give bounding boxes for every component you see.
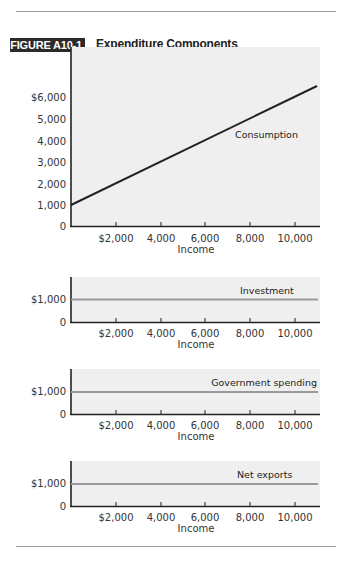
- x-tick-label: $2,000: [99, 328, 134, 339]
- y-tick-label: $6,000: [31, 92, 66, 103]
- x-tick-label: 8,000: [236, 328, 265, 339]
- x-tick-label: 10,000: [278, 328, 313, 339]
- y-tick-label: $1,000: [31, 386, 66, 397]
- y-tick-label: 0: [60, 317, 66, 328]
- x-axis-title: Income: [178, 523, 215, 534]
- y-tick-label: 2,000: [37, 179, 66, 190]
- x-axis-title: Income: [178, 339, 215, 350]
- x-tick-label: 6,000: [191, 328, 220, 339]
- x-tick-label: $2,000: [99, 420, 134, 431]
- x-tick-label: 8,000: [236, 420, 265, 431]
- consumption-chart: 0 1,000 2,000 3,000 4,000 5,000 $6,000 $…: [31, 47, 320, 255]
- y-tick-label: 0: [60, 221, 66, 232]
- y-tick-label: $1,000: [31, 294, 66, 305]
- x-tick-label: $2,000: [99, 512, 134, 523]
- x-tick-label: 6,000: [191, 512, 220, 523]
- x-axis-title: Income: [178, 244, 215, 255]
- x-tick-label: 4,000: [147, 420, 176, 431]
- y-tick-label: 3,000: [37, 157, 66, 168]
- net-exports-chart: $1,000 0 Net exports $2,000 4,000 6,000 …: [31, 461, 320, 534]
- x-tick-label: $2,000: [99, 233, 134, 244]
- x-tick-label: 6,000: [191, 420, 220, 431]
- net-exports-label: Net exports: [237, 469, 292, 480]
- investment-chart: $1,000 0 Investment $2,000 4,000 6,000 8…: [31, 277, 320, 350]
- y-tick-label: 1,000: [37, 200, 66, 211]
- government-spending-chart: $1,000 0 Government spending $2,000 4,00…: [31, 369, 320, 442]
- x-axis-title: Income: [178, 431, 215, 442]
- x-tick-label: 8,000: [236, 233, 265, 244]
- consumption-label: Consumption: [235, 129, 298, 140]
- bottom-rule: [16, 546, 336, 547]
- government-spending-label: Government spending: [211, 377, 317, 388]
- investment-label: Investment: [240, 285, 294, 296]
- y-tick-label: $1,000: [31, 478, 66, 489]
- x-tick-label: 4,000: [147, 233, 176, 244]
- x-tick-label: 10,000: [278, 512, 313, 523]
- y-tick-label: 4,000: [37, 136, 66, 147]
- x-tick-label: 4,000: [147, 328, 176, 339]
- y-tick-label: 5,000: [37, 114, 66, 125]
- x-tick-label: 4,000: [147, 512, 176, 523]
- x-tick-label: 8,000: [236, 512, 265, 523]
- x-tick-label: 10,000: [278, 420, 313, 431]
- x-tick-label: 10,000: [278, 233, 313, 244]
- y-tick-label: 0: [60, 501, 66, 512]
- chart-canvas: 0 1,000 2,000 3,000 4,000 5,000 $6,000 $…: [0, 0, 340, 563]
- x-tick-label: 6,000: [191, 233, 220, 244]
- y-tick-label: 0: [60, 409, 66, 420]
